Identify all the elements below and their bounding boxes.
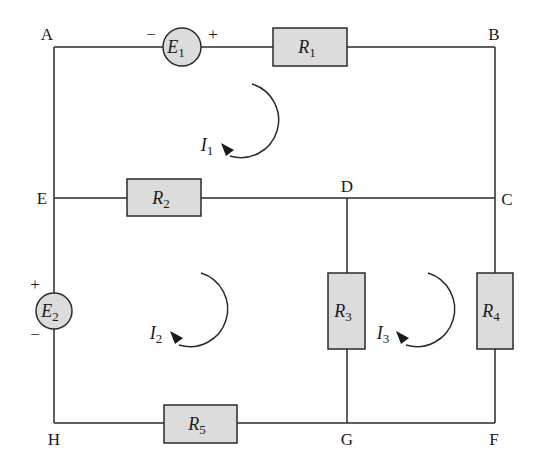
voltage-source-e2: E2 + − — [30, 275, 72, 344]
loop-i1-arrowhead-icon — [221, 143, 234, 156]
node-label-g: G — [341, 430, 353, 449]
voltage-source-e1: E1 − + — [146, 25, 218, 66]
node-label-a: A — [41, 25, 54, 44]
node-label-c: C — [501, 190, 512, 209]
node-label-d: D — [341, 177, 353, 196]
node-labels: A B C D E F G H — [37, 25, 513, 449]
loop-i3-arrowhead-icon — [396, 331, 409, 344]
resistor-r4: R4 — [477, 273, 513, 349]
source-e1-pos-sign: + — [208, 25, 218, 44]
loop-i3-label: I3 — [376, 323, 390, 346]
loop-current-i2: I2 — [149, 273, 228, 347]
loop-i2-label: I2 — [149, 323, 163, 346]
resistor-r5: R5 — [164, 405, 237, 443]
source-e2-neg-sign: − — [30, 325, 40, 344]
loop-i1-label: I1 — [200, 135, 214, 158]
loop-current-i3: I3 — [376, 273, 455, 347]
node-label-e: E — [37, 189, 47, 208]
loop-i3-arc-icon — [406, 273, 455, 347]
node-label-b: B — [488, 25, 499, 44]
loop-i2-arc-icon — [179, 273, 228, 347]
source-e2-pos-sign: + — [30, 275, 40, 294]
loop-i1-arc-icon — [230, 84, 279, 158]
circuit-diagram: A B C D E F G H E1 − + E2 + − R1 R2 R3 R… — [0, 0, 541, 472]
loop-i2-arrowhead-icon — [170, 331, 183, 344]
resistor-r3: R3 — [328, 273, 365, 349]
source-e1-neg-sign: − — [146, 25, 156, 44]
resistor-r2: R2 — [127, 179, 201, 216]
node-label-h: H — [48, 430, 60, 449]
node-label-f: F — [489, 430, 498, 449]
loop-current-i1: I1 — [200, 84, 279, 158]
resistor-r1: R1 — [273, 28, 347, 66]
